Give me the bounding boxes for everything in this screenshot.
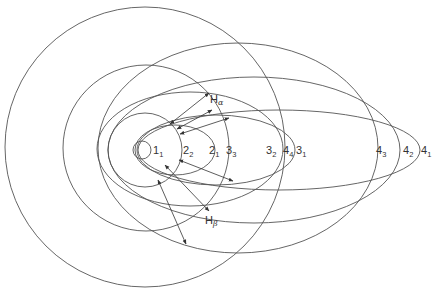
orbit-label-3_2: 32 [266, 144, 276, 159]
orbit-label-group: 11222133323144434241 [153, 144, 431, 159]
orbit-3_2 [97, 92, 283, 206]
transition-arrow-H_beta [158, 180, 186, 244]
orbit-4_4 [5, 7, 285, 287]
orbit-label-4_2: 42 [403, 144, 413, 159]
orbit-label-3_1: 31 [296, 144, 306, 159]
orbit-label-1_1: 11 [153, 144, 163, 159]
orbit-1_1 [133, 141, 151, 159]
transition-arrow-H_alpha [177, 110, 212, 129]
transition-arrow-H_beta [179, 160, 233, 181]
orbit-4_3 [98, 43, 378, 253]
series-label-H_beta: Hβ [205, 214, 218, 228]
bohr-sommerfeld-orbit-diagram: 11222133323144434241 HαHβ [0, 0, 435, 301]
transition-arrow-H_beta [165, 165, 209, 211]
orbit-label-3_3: 33 [226, 144, 236, 159]
orbit-label-4_1: 41 [421, 144, 431, 159]
orbit-label-2_1: 21 [209, 144, 219, 159]
orbit-label-2_2: 22 [183, 144, 193, 159]
